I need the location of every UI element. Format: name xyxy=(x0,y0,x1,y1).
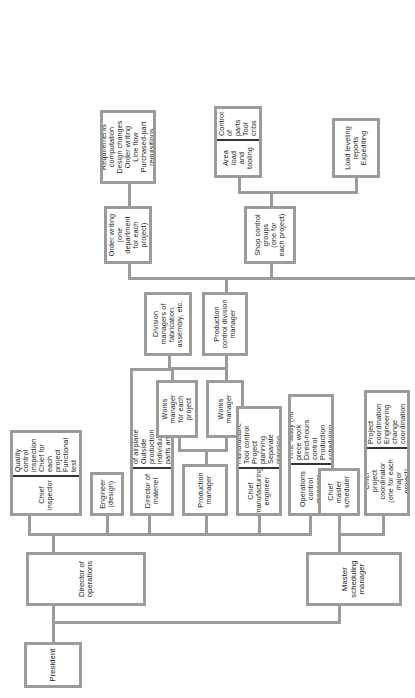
node-label: Director of operations xyxy=(29,555,143,603)
node-division-managers[interactable]: Division managers of fabrication, assemb… xyxy=(144,292,192,356)
connector xyxy=(238,178,241,194)
connector xyxy=(52,534,55,552)
connector xyxy=(178,449,228,452)
node-label: Load leveling reports Expediting xyxy=(335,121,377,175)
node-production-manager[interactable]: Production manager xyxy=(182,464,228,516)
connector xyxy=(106,516,109,536)
connector xyxy=(338,606,341,624)
node-order-writing[interactable]: Order writing (one department for each p… xyxy=(104,206,152,264)
node-label: Order writing (one department for each p… xyxy=(107,209,149,261)
connector xyxy=(205,516,208,536)
connector xyxy=(128,184,131,206)
connector xyxy=(270,264,273,280)
node-chief-project-coordinator[interactable]: Chief project coordinator (one for each … xyxy=(364,390,410,516)
node-master-scheduling-manager[interactable]: Master scheduling manager xyxy=(306,552,402,606)
node-label: Chief project coordinator (one for each … xyxy=(367,449,407,513)
connector xyxy=(168,367,228,370)
node-engineer-design[interactable]: Engineer (design) xyxy=(90,472,124,516)
connector xyxy=(52,622,55,644)
node-chief-master-scheduler[interactable]: Chief master scheduler xyxy=(318,468,360,516)
connector xyxy=(148,516,151,536)
node-label: Shop control groups (one for each projec… xyxy=(247,209,293,261)
connector xyxy=(309,516,312,536)
connector xyxy=(258,533,312,536)
node-details: Tool design Tool manufacture Tool contro… xyxy=(239,409,279,469)
node-load-leveling[interactable]: Load leveling reports Expediting xyxy=(332,118,380,178)
connector xyxy=(52,621,341,624)
connector xyxy=(338,534,341,552)
node-area-load-and-tooling[interactable]: Area load and tooling Control of parts T… xyxy=(214,106,262,178)
node-label: Area load and tooling xyxy=(217,141,259,175)
node-label: Chief inspector xyxy=(13,477,79,513)
node-president[interactable]: President xyxy=(24,642,82,688)
org-chart: President Chief inspector Quality contro… xyxy=(0,0,415,698)
connector xyxy=(238,191,358,194)
node-chief-manufacturing-engineer[interactable]: Chief manufacturing engineer Tool design… xyxy=(236,406,282,516)
node-label: Production control division manager xyxy=(205,295,245,353)
connector xyxy=(355,178,358,194)
connector xyxy=(128,264,131,280)
node-details: Quality control inspection Chief for eac… xyxy=(13,433,79,477)
node-label: Division managers of fabrication, assemb… xyxy=(147,295,189,353)
node-label: Works manager for each project xyxy=(159,383,195,435)
connector xyxy=(52,606,55,624)
connector xyxy=(28,516,31,536)
node-shop-control-groups[interactable]: Shop control groups (one for each projec… xyxy=(244,206,296,264)
connector xyxy=(205,450,208,464)
node-label: Requirements computation Design changes … xyxy=(103,113,153,181)
node-label: Master scheduling manager xyxy=(309,555,399,603)
connector xyxy=(338,516,341,536)
node-label: Chief manufacturing engineer xyxy=(239,469,279,513)
node-director-of-operations[interactable]: Director of operations xyxy=(26,552,146,606)
node-label: President xyxy=(27,645,79,685)
connector xyxy=(225,438,228,452)
chart-rotation-wrapper: President Chief inspector Quality contro… xyxy=(0,0,415,698)
connector xyxy=(270,192,273,206)
connector xyxy=(225,356,228,370)
connector xyxy=(28,533,258,536)
node-chief-inspector[interactable]: Chief inspector Quality control inspecti… xyxy=(10,430,82,516)
connector xyxy=(338,533,384,536)
connector xyxy=(225,278,228,292)
connector xyxy=(178,438,181,452)
node-details: Control of parts Tool cribs xyxy=(217,109,259,141)
node-label: Chief master scheduler xyxy=(321,471,357,513)
node-label: Engineer (design) xyxy=(93,475,121,513)
node-works-manager-each-project[interactable]: Works manager for each project xyxy=(156,380,198,438)
node-label: Director of materiel xyxy=(133,469,171,513)
node-order-writing-details[interactable]: Requirements computation Design changes … xyxy=(100,110,156,184)
node-details: Project coordination Engineering change … xyxy=(367,393,407,449)
node-label: Production manager xyxy=(185,467,225,513)
connector xyxy=(382,516,385,536)
node-production-control-division-manager[interactable]: Production control division manager xyxy=(202,292,248,356)
node-details: Manufacturing load analysis Time study (… xyxy=(291,397,331,465)
